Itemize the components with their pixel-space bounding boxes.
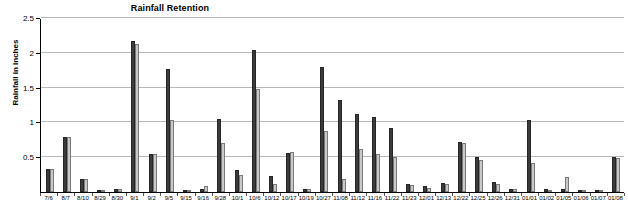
bar-group[interactable] [264, 19, 281, 192]
bar-group[interactable] [419, 19, 436, 192]
bar-group[interactable] [453, 19, 470, 192]
x-tick-mark [109, 193, 110, 196]
bar-group[interactable] [230, 19, 247, 192]
bar-group[interactable] [299, 19, 316, 192]
bar-group[interactable] [41, 19, 58, 192]
bar-retention[interactable] [410, 185, 414, 192]
bar-retention[interactable] [307, 189, 311, 192]
bar-group[interactable] [144, 19, 161, 192]
x-tick-mark [538, 193, 539, 196]
bar-group[interactable] [539, 19, 556, 192]
x-tick-mark [521, 193, 522, 196]
bar-retention[interactable] [479, 160, 483, 192]
x-tick-label: 01/08 [607, 195, 624, 201]
plot-area [40, 19, 624, 193]
bar-rainfall[interactable] [338, 100, 342, 192]
bar-retention[interactable] [153, 154, 157, 192]
gridline [41, 17, 624, 18]
bar-group[interactable] [247, 19, 264, 192]
bar-group[interactable] [161, 19, 178, 192]
bar-retention[interactable] [290, 152, 294, 192]
x-tick-mark [555, 193, 556, 196]
bar-retention[interactable] [565, 177, 569, 192]
x-tick-mark [92, 193, 93, 196]
bar-retention[interactable] [462, 143, 466, 192]
bar-retention[interactable] [324, 131, 328, 192]
bar-group[interactable] [75, 19, 92, 192]
x-tick-label: 10/6 [246, 195, 263, 201]
x-tick-mark [452, 193, 453, 196]
x-tick-label: 11/08 [332, 195, 349, 201]
bar-retention[interactable] [135, 44, 139, 192]
x-tick-mark [298, 193, 299, 196]
bar-group[interactable] [281, 19, 298, 192]
x-tick-mark [366, 193, 367, 196]
bar-retention[interactable] [273, 184, 277, 192]
bar-group[interactable] [350, 19, 367, 192]
y-tick-label: 1.5 [23, 84, 34, 93]
x-tick-mark [487, 193, 488, 196]
bar-group[interactable] [505, 19, 522, 192]
x-tick-label: 11/16 [366, 195, 383, 201]
bar-retention[interactable] [599, 190, 603, 192]
bar-retention[interactable] [101, 190, 105, 192]
bar-retention[interactable] [393, 157, 397, 192]
bar-retention[interactable] [427, 188, 431, 192]
bar-group[interactable] [93, 19, 110, 192]
bar-group[interactable] [591, 19, 608, 192]
bar-retention[interactable] [548, 190, 552, 192]
bar-group[interactable] [316, 19, 333, 192]
x-tick-mark [160, 193, 161, 196]
bar-retention[interactable] [204, 186, 208, 192]
x-tick-mark [504, 193, 505, 196]
bar-group[interactable] [556, 19, 573, 192]
bar-group[interactable] [196, 19, 213, 192]
bar-retention[interactable] [616, 158, 620, 192]
bar-group[interactable] [436, 19, 453, 192]
bar-group[interactable] [488, 19, 505, 192]
bar-group[interactable] [178, 19, 195, 192]
y-axis-tick-labels: 0.511.522.5 [0, 19, 36, 193]
bar-group[interactable] [385, 19, 402, 192]
bar-group[interactable] [213, 19, 230, 192]
y-tick-label: 2 [30, 49, 34, 58]
bar-group[interactable] [470, 19, 487, 192]
bar-retention[interactable] [513, 189, 517, 192]
bar-group[interactable] [58, 19, 75, 192]
x-tick-label: 12/31 [504, 195, 521, 201]
bar-retention[interactable] [256, 89, 260, 192]
bar-group[interactable] [333, 19, 350, 192]
bar-retention[interactable] [445, 184, 449, 192]
bar-retention[interactable] [187, 190, 191, 192]
bar-retention[interactable] [376, 154, 380, 192]
bar-group[interactable] [608, 19, 625, 192]
bar-group[interactable] [522, 19, 539, 192]
x-tick-mark [624, 193, 625, 196]
bar-retention[interactable] [531, 163, 535, 192]
x-tick-mark [177, 193, 178, 196]
y-tick-label: 1 [30, 118, 34, 127]
x-tick-label: 9/16 [195, 195, 212, 201]
bar-group[interactable] [127, 19, 144, 192]
bar-retention[interactable] [239, 175, 243, 192]
bar-retention[interactable] [221, 143, 225, 192]
bar-retention[interactable] [342, 179, 346, 192]
x-tick-mark [143, 193, 144, 196]
y-tick-label: 2.5 [23, 14, 34, 23]
bar-retention[interactable] [496, 184, 500, 192]
x-tick-mark [349, 193, 350, 196]
bar-retention[interactable] [50, 169, 54, 192]
bar-retention[interactable] [118, 189, 122, 192]
bar-group[interactable] [367, 19, 384, 192]
bar-group[interactable] [573, 19, 590, 192]
bar-retention[interactable] [67, 137, 71, 192]
x-tick-mark [572, 193, 573, 196]
x-tick-label: 8/7 [57, 195, 74, 201]
bar-retention[interactable] [582, 190, 586, 192]
bar-group[interactable] [402, 19, 419, 192]
bar-retention[interactable] [359, 149, 363, 192]
bar-retention[interactable] [170, 120, 174, 192]
bar-retention[interactable] [84, 179, 88, 192]
bar-group[interactable] [110, 19, 127, 192]
x-tick-label: 10/1 [229, 195, 246, 201]
